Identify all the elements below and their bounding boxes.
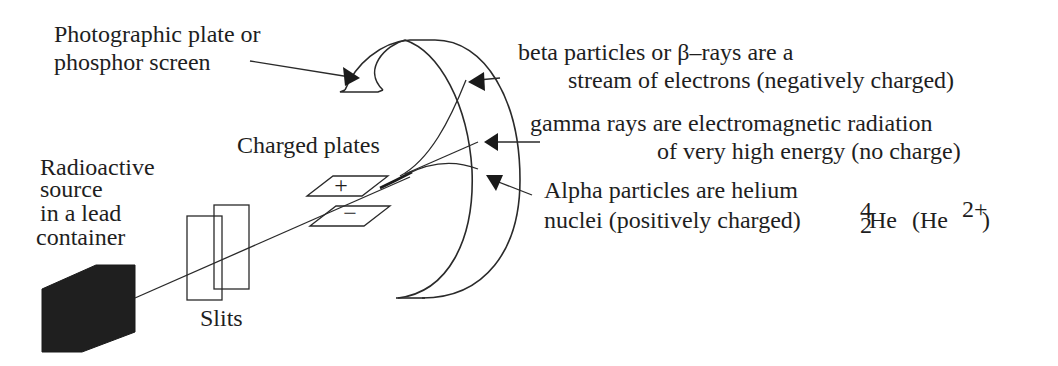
alpha-formula: 4 2 He (He 2+ ) <box>860 196 990 238</box>
gamma-beam <box>405 142 478 174</box>
radiation-beam <box>135 177 410 298</box>
alpha-label-line2: nuclei (positively charged) <box>544 207 801 233</box>
slit-front <box>187 216 222 300</box>
svg-text:He: He <box>869 207 897 233</box>
screen-inner-arc <box>375 40 473 298</box>
positive-plate-sign: + <box>334 172 348 198</box>
lead-container <box>42 265 135 352</box>
slits-label: Slits <box>200 305 243 331</box>
svg-text:(He: (He <box>912 207 948 233</box>
source-label-line2: source <box>40 176 103 202</box>
screen-label-line1: Photographic plate or <box>54 21 261 47</box>
gamma-label-line2: of very high energy (no charge) <box>657 138 961 164</box>
svg-text:): ) <box>982 207 990 233</box>
beta-arrowhead-icon <box>468 72 485 91</box>
beta-label-line2: stream of electrons (negatively charged) <box>568 67 954 93</box>
source-label-line3: in a lead <box>40 200 121 226</box>
screen-top-flap <box>340 90 383 92</box>
screen-label-line2: phosphor screen <box>54 49 211 75</box>
beta-label-line1: beta particles or β–rays are a <box>518 39 794 65</box>
alpha-label-line1: Alpha particles are helium <box>544 177 798 203</box>
slit-back <box>214 205 249 289</box>
source-label-line4: container <box>36 224 125 250</box>
charged-plates-label: Charged plates <box>237 132 380 158</box>
gamma-label-line1: gamma rays are electromagnetic radiation <box>530 110 932 136</box>
gamma-arrowhead-icon <box>484 133 498 151</box>
radiation-deflection-diagram: + − Photographic plate or phosphor scree… <box>0 0 1058 366</box>
alpha-pointer <box>496 181 532 195</box>
screen-pointer <box>250 61 350 77</box>
